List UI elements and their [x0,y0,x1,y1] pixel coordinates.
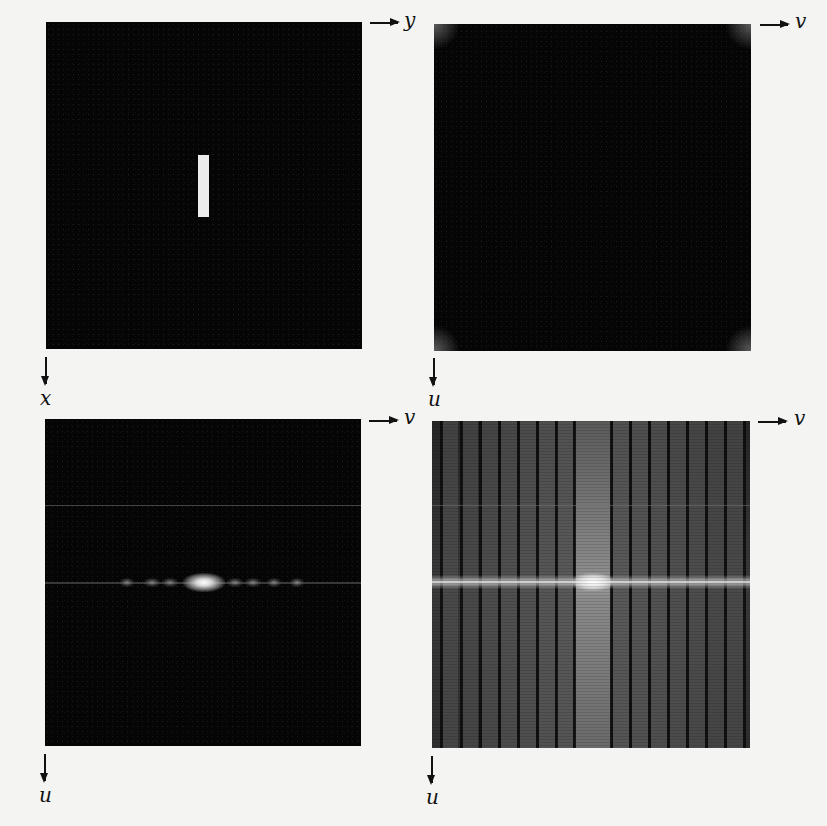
corner-glow-bottom-left [434,325,460,351]
faint-horizontal-line [45,505,361,506]
panel-centered-spectrum [45,419,361,746]
axis-label-u: u [428,389,441,409]
axis-label-v: v [404,407,415,427]
side-lobe [144,578,160,587]
central-peak [183,573,225,592]
axis-label-y: y [404,10,415,30]
side-lobe [290,578,304,587]
noise-texture [434,24,751,351]
axis-arrow-right-v [758,421,786,423]
axis-label-x: x [40,388,51,408]
axis-label-v: v [794,408,805,428]
side-lobe [120,578,134,587]
axis-label-u: u [426,787,439,807]
corner-glow-top-right [725,24,751,50]
axis-label-u: u [39,785,52,805]
axis-arrow-down-x [45,357,47,384]
faint-horizontal-line [432,505,750,506]
side-lobe [227,578,243,587]
axis-arrow-down-u [44,754,46,781]
spectrum-center-peak [572,573,614,591]
axis-arrow-down-u [431,756,433,783]
axis-arrow-right-v [369,420,397,422]
panel-uncentered-spectrum [434,24,751,351]
axis-arrow-right-y [370,22,398,24]
side-lobe [245,578,261,587]
axis-arrow-down-u [433,358,435,385]
panel-log-spectrum [432,421,750,748]
corner-glow-top-left [434,24,460,50]
panel-spatial-image [46,22,362,349]
side-lobe [267,578,281,587]
side-lobe [162,578,178,587]
white-rectangle-object [198,155,209,217]
axis-label-v: v [795,11,806,31]
corner-glow-bottom-right [725,325,751,351]
axis-arrow-right-v [760,24,788,26]
